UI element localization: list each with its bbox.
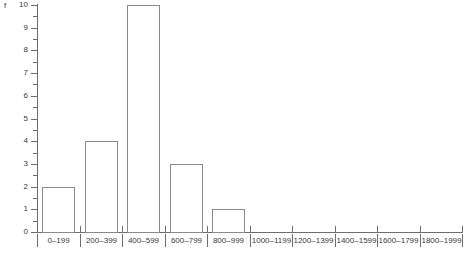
y-tick-minor xyxy=(33,130,37,131)
y-axis-line xyxy=(37,4,38,233)
x-tick-label: 1200–1399 xyxy=(292,234,335,248)
y-tick-major xyxy=(31,50,37,51)
y-tick-major xyxy=(31,164,37,165)
x-bin-tick xyxy=(250,226,251,232)
x-bin-tick xyxy=(165,226,166,232)
y-tick-minor xyxy=(33,84,37,85)
y-tick-label: 9 xyxy=(6,24,28,32)
x-tick-label: 600–799 xyxy=(165,234,208,248)
y-tick-label: 8 xyxy=(6,46,28,54)
x-tick-label: 200–399 xyxy=(80,234,123,248)
y-tick-label: 1 xyxy=(6,205,28,213)
histogram-bar xyxy=(85,141,118,233)
x-label-separator xyxy=(335,234,336,247)
y-tick-label: 10 xyxy=(6,1,28,9)
x-tick-label: 1400–1599 xyxy=(335,234,378,248)
x-label-separator xyxy=(420,234,421,247)
x-bin-tick xyxy=(122,226,123,232)
y-tick-label: 7 xyxy=(6,69,28,77)
y-tick-major xyxy=(31,28,37,29)
x-bin-tick xyxy=(462,226,463,232)
y-tick-minor xyxy=(33,221,37,222)
y-tick-minor xyxy=(33,62,37,63)
histogram-chart: f 012345678910 0–199200–399400–599600–79… xyxy=(0,0,473,261)
x-label-separator xyxy=(250,234,251,247)
x-bin-tick xyxy=(377,226,378,232)
y-tick-major xyxy=(31,5,37,6)
x-label-separator xyxy=(37,234,38,247)
y-tick-minor xyxy=(33,153,37,154)
y-tick-minor xyxy=(33,107,37,108)
y-tick-major xyxy=(31,187,37,188)
x-bin-tick xyxy=(80,226,81,232)
x-tick-label: 1800–1999 xyxy=(420,234,463,248)
histogram-bar xyxy=(42,187,75,233)
x-tick-label: 1000–1199 xyxy=(250,234,293,248)
x-bin-tick xyxy=(420,226,421,232)
x-bin-tick xyxy=(207,226,208,232)
x-tick-label: 0–199 xyxy=(37,234,80,248)
y-tick-minor xyxy=(33,16,37,17)
y-tick-minor xyxy=(33,39,37,40)
x-bin-tick xyxy=(37,226,38,232)
x-bin-tick xyxy=(335,226,336,232)
y-tick-label: 4 xyxy=(6,137,28,145)
x-label-separator xyxy=(462,234,463,247)
x-label-separator xyxy=(165,234,166,247)
y-tick-major xyxy=(31,141,37,142)
x-label-separator xyxy=(122,234,123,247)
y-tick-label: 2 xyxy=(6,183,28,191)
x-label-separator xyxy=(292,234,293,247)
x-label-separator xyxy=(377,234,378,247)
y-tick-label: 0 xyxy=(6,228,28,236)
y-tick-major xyxy=(31,232,37,233)
y-tick-label: 5 xyxy=(6,115,28,123)
x-bin-tick xyxy=(292,226,293,232)
histogram-bar xyxy=(127,5,160,233)
x-label-separator xyxy=(207,234,208,247)
x-label-separator xyxy=(80,234,81,247)
y-tick-label: 6 xyxy=(6,92,28,100)
y-tick-major xyxy=(31,209,37,210)
y-tick-minor xyxy=(33,198,37,199)
y-tick-minor xyxy=(33,175,37,176)
x-tick-label: 400–599 xyxy=(122,234,165,248)
y-tick-label: 3 xyxy=(6,160,28,168)
y-tick-major xyxy=(31,73,37,74)
histogram-bar xyxy=(212,209,245,233)
histogram-bar xyxy=(170,164,203,233)
x-tick-label: 1600–1799 xyxy=(377,234,420,248)
y-tick-major xyxy=(31,96,37,97)
x-tick-label: 800–999 xyxy=(207,234,250,248)
y-tick-major xyxy=(31,119,37,120)
